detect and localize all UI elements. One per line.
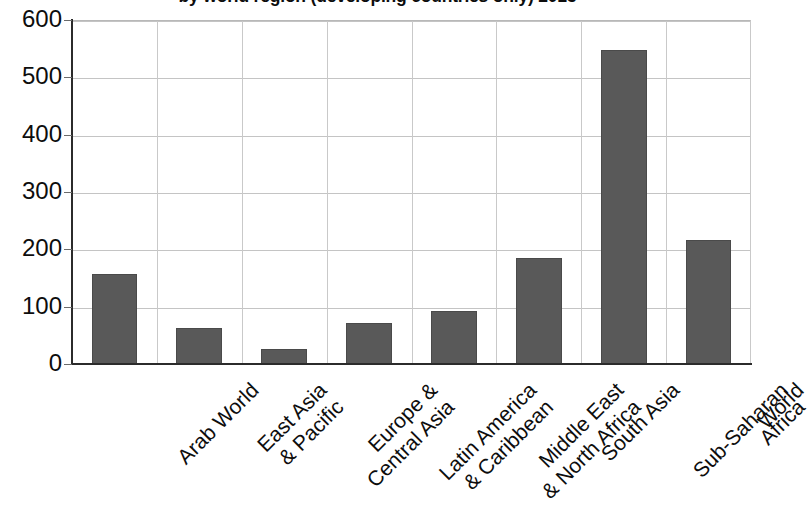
y-tick-mark-300 xyxy=(64,192,72,193)
gridline-200 xyxy=(72,250,750,251)
vertical-gridline-7 xyxy=(666,21,667,364)
y-tick-label-400: 400 xyxy=(2,122,62,146)
y-tick-label-500: 500 xyxy=(2,64,62,88)
vertical-gridline-1 xyxy=(157,21,158,364)
y-tick-mark-600 xyxy=(64,20,72,21)
vertical-gridline-4 xyxy=(412,21,413,364)
bar-middle-east-north-africa xyxy=(431,311,477,364)
plot-area xyxy=(72,20,751,364)
chart-title: by world region (developing countries on… xyxy=(0,0,755,7)
x-axis-tick-labels: Arab WorldEast Asia& PacificEurope &Cent… xyxy=(0,364,755,510)
gridline-600 xyxy=(72,21,750,22)
y-tick-mark-100 xyxy=(64,307,72,308)
y-tick-mark-200 xyxy=(64,249,72,250)
x-tick-label-arab-world: Arab World xyxy=(173,378,264,469)
y-tick-mark-400 xyxy=(64,135,72,136)
gridline-100 xyxy=(72,308,750,309)
y-tick-label-600: 600 xyxy=(2,7,62,31)
bar-europe-central-asia xyxy=(261,349,307,364)
bar-latin-america-caribbean xyxy=(346,323,392,364)
x-tick-label-line: Arab World xyxy=(173,378,264,469)
vertical-gridline-5 xyxy=(496,21,497,364)
bar-sub-saharan-africa xyxy=(601,50,647,364)
y-tick-label-100: 100 xyxy=(2,294,62,318)
y-tick-label-200: 200 xyxy=(2,236,62,260)
vertical-gridline-2 xyxy=(242,21,243,364)
bar-world xyxy=(686,240,732,364)
gridline-400 xyxy=(72,136,750,137)
vertical-gridline-6 xyxy=(581,21,582,364)
gridline-300 xyxy=(72,193,750,194)
x-tick-label-east-asia-pacific: East Asia& Pacific xyxy=(253,378,349,474)
bar-south-asia xyxy=(516,258,562,364)
gridline-500 xyxy=(72,78,750,79)
vertical-gridline-3 xyxy=(327,21,328,364)
y-tick-mark-500 xyxy=(64,77,72,78)
bar-east-asia-pacific xyxy=(176,328,222,364)
y-tick-label-300: 300 xyxy=(2,179,62,203)
bar-arab-world xyxy=(92,274,138,364)
